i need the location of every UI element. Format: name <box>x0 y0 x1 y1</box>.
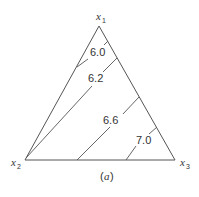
contour-6-6: 6.6 <box>77 97 139 160</box>
contour-label: 6.0 <box>90 46 105 58</box>
vertex-label-x3: x 3 <box>179 156 190 170</box>
figure-caption: ( a ) <box>100 170 114 182</box>
contour-6-2: 6.2 <box>26 58 117 158</box>
contour-label: 7.0 <box>136 134 151 146</box>
contour-7-0: 7.0 <box>126 127 157 160</box>
svg-text:x: x <box>95 10 101 22</box>
contour-label: 6.2 <box>88 72 103 84</box>
contour-label: 6.6 <box>103 114 118 126</box>
svg-text:x: x <box>179 156 185 168</box>
svg-text:2: 2 <box>17 163 21 170</box>
contour-6-0: 6.0 <box>77 41 108 67</box>
svg-text:3: 3 <box>186 163 190 170</box>
vertex-label-x1: x 1 <box>95 10 106 24</box>
svg-text:x: x <box>10 156 16 168</box>
ternary-diagram: 6.0 6.2 6.6 7.0 x 1 x 2 x 3 ( a ) <box>0 0 199 197</box>
svg-text:): ) <box>110 170 114 182</box>
vertex-label-x2: x 2 <box>10 156 21 170</box>
svg-text:1: 1 <box>102 17 106 24</box>
